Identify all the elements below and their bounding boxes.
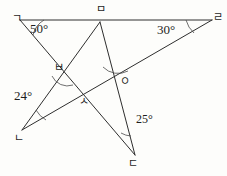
angle-label-25deg: 25° <box>136 113 153 125</box>
vertex-label-ieung: ㅇ <box>120 76 130 87</box>
vertex-label-mieum: ㅁ <box>96 4 106 15</box>
angle-label-24deg: 24° <box>14 89 32 102</box>
vertex-label-bieup: ㅂ <box>54 62 64 73</box>
segment-mieum-nieun <box>22 22 100 130</box>
geometry-figure: ㄱ ㅁ ㄹ ㅂ ㅇ ㅅ ㄴ ㄷ 50° 30° 24° 25° <box>0 0 227 176</box>
angle-label-50deg: 50° <box>30 22 48 35</box>
vertex-label-rieul: ㄹ <box>213 12 223 23</box>
segment-nieun-rieul <box>22 20 212 130</box>
angle-label-30deg: 30° <box>157 23 175 36</box>
vertex-label-digeut: ㄷ <box>128 158 138 169</box>
vertex-label-siot: ㅅ <box>79 96 89 107</box>
vertex-label-nieun: ㄴ <box>14 133 24 144</box>
vertex-label-giyeok: ㄱ <box>12 13 22 24</box>
